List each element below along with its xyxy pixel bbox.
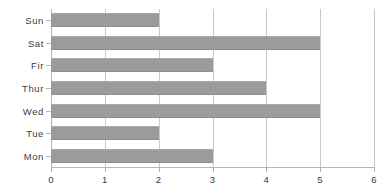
x-tick-mark [159,167,160,172]
bar [51,58,213,72]
x-tick-label: 4 [251,174,281,185]
bar-row [51,149,213,163]
y-tick-mark [46,43,51,44]
y-tick-mark [46,88,51,89]
x-tick-mark [320,167,321,172]
bar-row [51,126,159,140]
bar-row [51,36,320,50]
category-label: Wed [23,106,44,117]
x-tick-mark [105,167,106,172]
bar-row [51,104,320,118]
category-label: Mon [24,151,44,162]
y-tick-mark [46,65,51,66]
y-tick-mark [46,111,51,112]
bar-chart: 0123456 SunSatFirThurWedTueMon [0,0,389,195]
x-tick-label: 0 [36,174,66,185]
category-label: Fir [31,60,44,71]
bar-row [51,81,266,95]
bar [51,36,320,50]
bar-row [51,13,159,27]
gridline [374,9,375,167]
category-label: Thur [22,83,44,94]
x-tick-mark [374,167,375,172]
bar-series [51,9,374,167]
y-tick-mark [46,156,51,157]
bar [51,149,213,163]
plot-area [51,9,374,167]
category-label: Tue [26,128,44,139]
x-tick-mark [266,167,267,172]
x-tick-label: 6 [359,174,389,185]
bar [51,104,320,118]
x-tick-label: 1 [90,174,120,185]
category-label: Sat [28,38,44,49]
bar [51,13,159,27]
x-tick-mark [51,167,52,172]
bar [51,81,266,95]
x-tick-label: 2 [144,174,174,185]
x-tick-mark [213,167,214,172]
x-tick-label: 3 [198,174,228,185]
bar-row [51,58,213,72]
y-tick-mark [46,133,51,134]
category-label: Sun [25,15,44,26]
x-tick-label: 5 [305,174,335,185]
y-tick-mark [46,20,51,21]
bar [51,126,159,140]
